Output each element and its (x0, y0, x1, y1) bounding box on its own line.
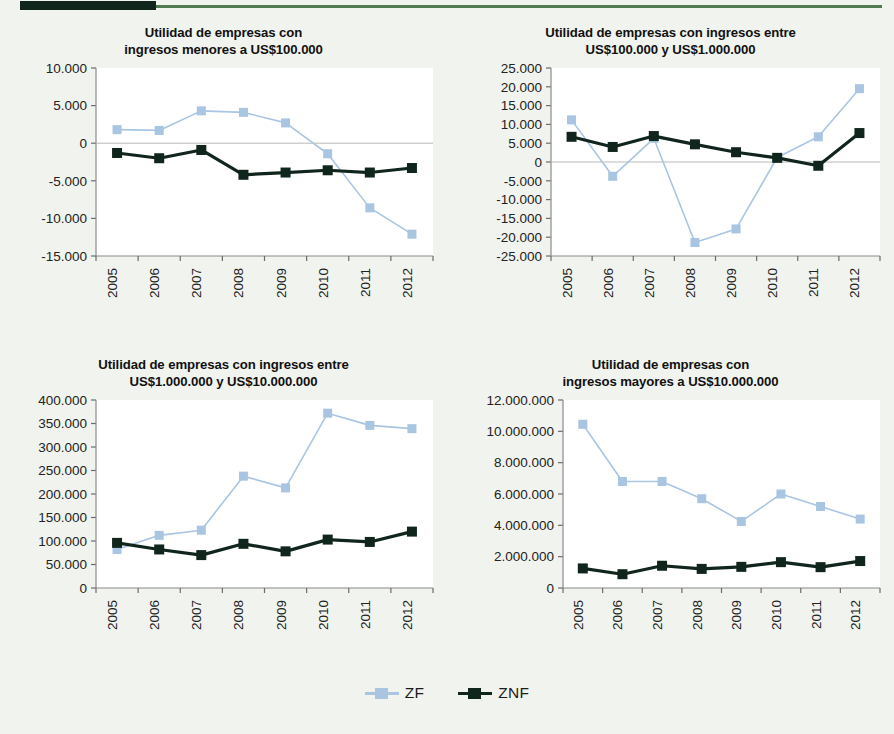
x-axis-tick-label: 2006 (147, 600, 162, 630)
series-marker-zf (155, 126, 164, 135)
series-marker-zf (197, 526, 206, 535)
series-marker-zf (239, 472, 248, 481)
y-axis-tick-label: 0 (79, 581, 87, 596)
x-axis-tick-label: 2008 (683, 268, 698, 298)
chart-legend: ZF ZNF (0, 678, 894, 708)
plot-area: 12.000.00010.000.0008.000.0006.000.0004.… (447, 392, 894, 676)
y-axis-tick-label: 5.000 (53, 98, 87, 113)
series-marker-znf (608, 142, 618, 152)
chart-page: Utilidad de empresas coningresos menores… (0, 0, 894, 734)
chart-title: Utilidad de empresas coningresos menores… (0, 14, 447, 58)
x-axis-tick-label: 2005 (560, 268, 575, 298)
x-axis-tick-label: 2010 (316, 600, 331, 630)
chart-svg: 25.00020.00015.00010.0005.0000-5.000-10.… (447, 60, 894, 344)
x-axis-tick-label: 2012 (847, 268, 862, 298)
series-marker-znf (736, 562, 746, 572)
plot-background (96, 400, 433, 588)
series-marker-znf (281, 168, 291, 178)
series-marker-zf (567, 115, 576, 124)
y-axis-tick-label: 350.000 (38, 416, 87, 431)
series-marker-znf (617, 569, 627, 579)
y-axis-tick-label: 250.000 (38, 463, 87, 478)
series-marker-znf (281, 546, 291, 556)
series-marker-znf (365, 168, 375, 178)
x-axis-tick-label: 2008 (690, 600, 705, 630)
series-marker-znf (697, 564, 707, 574)
y-axis-tick-label: 5.000 (508, 136, 542, 151)
x-axis-tick-label: 2011 (358, 600, 373, 629)
series-marker-znf (154, 544, 164, 554)
series-marker-znf (776, 557, 786, 567)
series-marker-zf (856, 515, 865, 524)
y-axis-tick-label: -15.000 (41, 249, 87, 264)
y-axis-tick-label: 10.000.000 (486, 424, 554, 439)
chart-title: Utilidad de empresas con ingresos entreU… (0, 346, 447, 390)
x-axis-tick-label: 2009 (729, 600, 744, 630)
x-axis-tick-label: 2006 (601, 268, 616, 298)
series-marker-znf (238, 539, 248, 549)
legend-item-znf: ZNF (458, 684, 529, 702)
series-marker-zf (732, 224, 741, 233)
series-marker-zf (814, 132, 823, 141)
series-marker-znf (323, 535, 333, 545)
y-axis-tick-label: 50.000 (46, 557, 87, 572)
series-marker-zf (618, 477, 627, 486)
y-axis-tick-label: 10.000 (501, 117, 542, 132)
x-axis-tick-label: 2008 (231, 600, 246, 630)
y-axis-tick-label: 0 (79, 136, 87, 151)
y-axis-tick-label: -20.000 (496, 230, 542, 245)
series-marker-zf (407, 230, 416, 239)
chart-title-line2: US$1.000.000 y US$10.000.000 (130, 374, 318, 389)
series-marker-znf (407, 527, 417, 537)
chart-title-line2: ingresos mayores a US$10.000.000 (563, 374, 779, 389)
series-marker-zf (365, 203, 374, 212)
y-axis-tick-label: 4.000.000 (494, 518, 554, 533)
series-marker-zf (737, 517, 746, 526)
series-marker-znf (649, 131, 659, 141)
series-marker-zf (690, 238, 699, 247)
series-marker-zf (697, 494, 706, 503)
series-marker-zf (855, 84, 864, 93)
legend-swatch-znf-icon (458, 686, 492, 700)
series-marker-zf (816, 502, 825, 511)
x-axis-tick-label: 2012 (400, 600, 415, 630)
series-marker-znf (323, 165, 333, 175)
plot-area: 10.0005.0000-5.000-10.000-15.00020052006… (0, 60, 447, 344)
header-rule-block (20, 1, 156, 10)
plot-background (96, 68, 433, 256)
series-marker-zf (323, 409, 332, 418)
y-axis-tick-label: -25.000 (496, 249, 542, 264)
series-marker-zf (281, 483, 290, 492)
y-axis-tick-label: 200.000 (38, 487, 87, 502)
x-axis-tick-label: 2012 (400, 268, 415, 298)
chart-title-line1: Utilidad de empresas con (145, 25, 302, 40)
chart-title-line2: US$100.000 y US$1.000.000 (586, 42, 756, 57)
x-axis-tick-label: 2007 (642, 268, 657, 298)
header-rule (0, 0, 894, 14)
chart-title-line2: ingresos menores a US$100.000 (124, 42, 323, 57)
chart-svg: 10.0005.0000-5.000-10.000-15.00020052006… (0, 60, 447, 344)
chart-title: Utilidad de empresas con ingresos entreU… (447, 14, 894, 58)
series-marker-znf (690, 139, 700, 149)
series-marker-zf (365, 421, 374, 430)
legend-label-zf: ZF (405, 684, 425, 702)
y-axis-tick-label: 150.000 (38, 510, 87, 525)
x-axis-tick-label: 2010 (765, 268, 780, 298)
x-axis-tick-label: 2009 (724, 268, 739, 298)
series-marker-znf (407, 163, 417, 173)
series-marker-zf (281, 118, 290, 127)
legend-marker-zf (375, 688, 388, 699)
y-axis-tick-label: 8.000.000 (494, 455, 554, 470)
x-axis-tick-label: 2006 (147, 268, 162, 298)
chart-svg: 400.000350.000300.000250.000200.000150.0… (0, 392, 447, 676)
y-axis-tick-label: 0 (546, 581, 554, 596)
x-axis-tick-label: 2007 (650, 600, 665, 630)
x-axis-tick-label: 2009 (274, 268, 289, 298)
y-axis-tick-label: 300.000 (38, 440, 87, 455)
series-marker-znf (731, 147, 741, 157)
series-marker-znf (578, 563, 588, 573)
series-marker-znf (196, 550, 206, 560)
series-marker-znf (855, 556, 865, 566)
y-axis-tick-label: 400.000 (38, 393, 87, 408)
y-axis-tick-label: -5.000 (49, 174, 87, 189)
